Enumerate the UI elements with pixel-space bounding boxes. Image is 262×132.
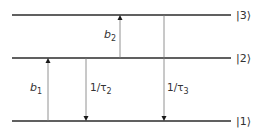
arrow-up-icon <box>46 58 51 63</box>
transition-tau3: 1/τ3 <box>162 15 189 121</box>
transition-b2-label-main: b <box>104 28 111 41</box>
level-2-label: |2⟩ <box>236 52 251 65</box>
energy-level-diagram: |3⟩ |2⟩ |1⟩ b1 1/τ2 b2 <box>0 0 262 132</box>
transition-tau2: 1/τ2 <box>84 58 112 121</box>
transition-tau3-label-sub: 3 <box>184 87 189 96</box>
transition-b1: b1 <box>30 58 51 121</box>
transition-b1-label: b1 <box>30 81 42 96</box>
level-3-label: |3⟩ <box>236 9 251 22</box>
transition-b2-label: b2 <box>104 28 116 43</box>
transition-b2-label-sub: 2 <box>111 34 116 43</box>
transition-b1-label-sub: 1 <box>37 87 42 96</box>
arrow-down-icon <box>84 116 89 121</box>
transition-tau2-label-sub: 2 <box>107 87 112 96</box>
transition-b1-label-main: b <box>30 81 37 94</box>
transition-tau2-label: 1/τ2 <box>90 81 112 96</box>
transition-tau3-label: 1/τ3 <box>167 81 189 96</box>
transitions: b1 1/τ2 b2 1/τ3 <box>30 15 189 121</box>
transition-tau2-label-main: 1/τ <box>90 81 107 93</box>
transition-tau3-label-main: 1/τ <box>167 81 184 93</box>
arrow-up-icon <box>118 15 123 20</box>
level-1-label: |1⟩ <box>236 115 251 128</box>
arrow-down-icon <box>162 116 167 121</box>
transition-b2: b2 <box>104 15 123 58</box>
